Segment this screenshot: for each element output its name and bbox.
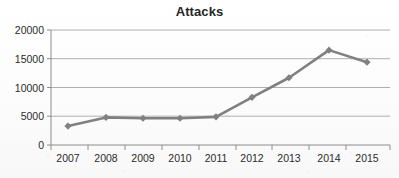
y-tick-label: 0 — [38, 139, 44, 151]
y-tick-label: 20000 — [15, 24, 44, 36]
data-point-marker — [363, 59, 370, 66]
x-tick-label: 2009 — [131, 152, 155, 164]
chart-screenshot: Attacks 20000 15000 10000 5000 0 — [0, 0, 399, 178]
line-chart-plot: 20000 15000 10000 5000 0 2007 2008 2009 … — [0, 0, 399, 178]
data-point-marker — [176, 115, 183, 122]
y-tick-label: 10000 — [15, 82, 44, 94]
gridlines — [51, 30, 390, 116]
y-tick-label: 15000 — [15, 53, 44, 65]
x-tick-label: 2010 — [168, 152, 192, 164]
x-tick-label: 2007 — [56, 152, 80, 164]
x-tick-label: 2014 — [317, 152, 341, 164]
x-axis — [51, 145, 390, 150]
y-tick-label: 5000 — [21, 110, 45, 122]
x-tick-label: 2008 — [94, 152, 118, 164]
data-point-marker — [102, 114, 109, 121]
x-tick-label: 2012 — [240, 152, 264, 164]
y-axis — [47, 30, 51, 145]
series-line-attacks — [68, 50, 367, 126]
x-tick-label: 2013 — [277, 152, 301, 164]
x-tick-label: 2015 — [355, 152, 379, 164]
data-point-marker — [139, 115, 146, 122]
y-axis-tick-labels: 20000 15000 10000 5000 0 — [15, 24, 44, 151]
data-point-marker — [64, 122, 71, 129]
x-axis-tick-labels: 2007 2008 2009 2010 2011 2012 2013 2014 … — [56, 152, 379, 164]
x-tick-label: 2011 — [205, 152, 228, 164]
